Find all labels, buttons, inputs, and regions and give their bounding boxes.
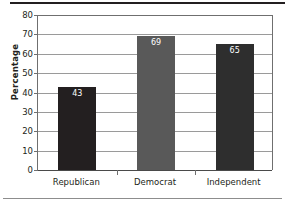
- x-axis-category-labels: RepublicanDemocratIndependent: [37, 178, 273, 192]
- y-tick-label: 50: [3, 69, 33, 78]
- bar-value-label: 65: [216, 47, 254, 55]
- x-tickmark: [195, 170, 196, 175]
- bar-chart-figure: Percentage 80706050403020100 436965 Repu…: [0, 0, 285, 204]
- y-tick-label: 10: [3, 146, 33, 155]
- y-tick-label: 30: [3, 108, 33, 117]
- y-tick-label: 80: [3, 11, 33, 20]
- y-tick-label: 40: [3, 88, 33, 97]
- bar-value-label: 43: [58, 90, 96, 98]
- bar-slot: 65: [195, 15, 274, 170]
- y-tickmark: [34, 170, 38, 171]
- x-category-label: Independent: [194, 178, 273, 187]
- y-tick-label: 70: [3, 30, 33, 39]
- bars-group: 436965: [38, 15, 272, 170]
- top-divider-rule: [10, 2, 285, 4]
- x-category-label: Republican: [37, 178, 116, 187]
- bar[interactable]: 43: [58, 87, 96, 170]
- bar[interactable]: 65: [216, 44, 254, 170]
- y-tick-label: 0: [3, 166, 33, 175]
- y-tick-label: 20: [3, 127, 33, 136]
- bar-slot: 43: [38, 15, 117, 170]
- bar-slot: 69: [117, 15, 196, 170]
- plot-area: 80706050403020100 436965: [37, 15, 273, 170]
- bottom-divider-rule: [3, 198, 282, 199]
- x-category-label: Democrat: [116, 178, 195, 187]
- y-tick-label: 60: [3, 50, 33, 59]
- x-tickmark: [117, 170, 118, 175]
- bar-value-label: 69: [137, 39, 175, 47]
- gridline: [38, 170, 272, 171]
- bar[interactable]: 69: [137, 36, 175, 170]
